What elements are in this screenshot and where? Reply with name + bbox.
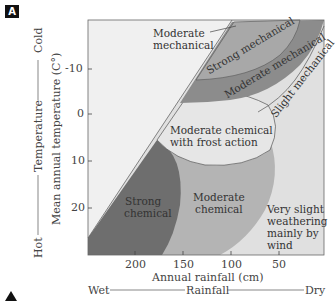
x-tick-label: 100 [221,258,242,271]
y-outer-label-temperature: Temperature [32,100,45,172]
label-line: Strong [124,195,172,207]
label-strong-chemical: Strong chemical [124,195,172,219]
x-tick-label: 200 [125,258,146,271]
label-line: chemical [124,207,172,219]
label-line: with frost action [170,136,273,148]
label-line: wind [267,239,328,251]
y-outer-label-cold: Cold [32,27,45,53]
y-tick-label: 20 [71,201,85,214]
label-line: mainly by [267,227,328,239]
label-moderate-mechanical-top: Moderate mechanical [153,27,214,51]
x-outer-label-dry: Dry [305,284,325,297]
label-very-slight-weathering: Very slight weathering mainly by wind [267,203,328,251]
triangle-marker-icon [5,291,17,301]
y-tick-label: 10 [71,154,85,167]
label-moderate-chemical-frost: Moderate chemical with frost action [170,124,273,148]
x-axis-label: Annual rainfall (cm) [152,271,264,284]
y-axis-label: Mean annual temperature (C°) [50,53,63,225]
y-outer-label-hot: Hot [32,237,45,258]
x-tick-label: 50 [272,258,286,271]
x-outer-label-wet: Wet [88,284,109,297]
label-line: Moderate chemical [170,124,273,136]
label-line: chemical [193,203,245,215]
label-line: Moderate [193,191,245,203]
y-tick-label: 0 [77,107,84,120]
x-outer-label-rainfall: Rainfall [186,284,229,297]
y-tick-label: -10 [65,62,83,75]
label-line: weathering [267,215,328,227]
label-line: mechanical [153,39,214,51]
label-line: Very slight [267,203,328,215]
x-tick-label: 150 [173,258,194,271]
label-line: Moderate [153,27,214,39]
label-moderate-chemical: Moderate chemical [193,191,245,215]
